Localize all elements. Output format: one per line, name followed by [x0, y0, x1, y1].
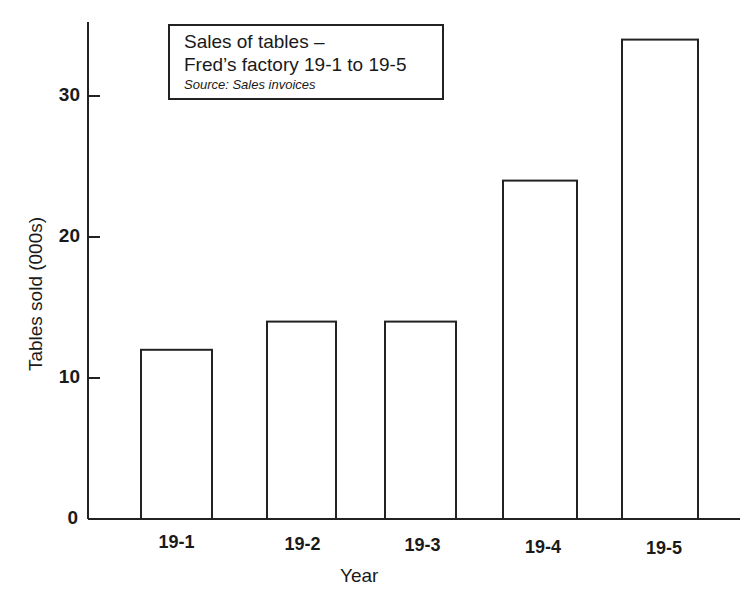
x-tick-label: 19-2 [263, 534, 343, 555]
x-tick-label: 19-1 [137, 532, 217, 553]
x-tick-label: 19-5 [624, 538, 704, 559]
bar-19-2 [267, 322, 336, 519]
x-tick-label: 19-3 [383, 535, 463, 556]
y-tick-label: 0 [38, 507, 78, 529]
y-tick-label: 30 [40, 84, 80, 106]
bar-19-1 [141, 350, 212, 519]
bar-19-4 [503, 181, 577, 519]
x-tick-label: 19-4 [503, 537, 583, 558]
y-tick-label: 20 [40, 225, 80, 247]
bar-19-3 [385, 322, 456, 519]
plot-area [0, 0, 755, 602]
y-tick-label: 10 [40, 366, 80, 388]
x-axis-label: Year [340, 565, 378, 587]
bar-19-5 [622, 40, 698, 519]
